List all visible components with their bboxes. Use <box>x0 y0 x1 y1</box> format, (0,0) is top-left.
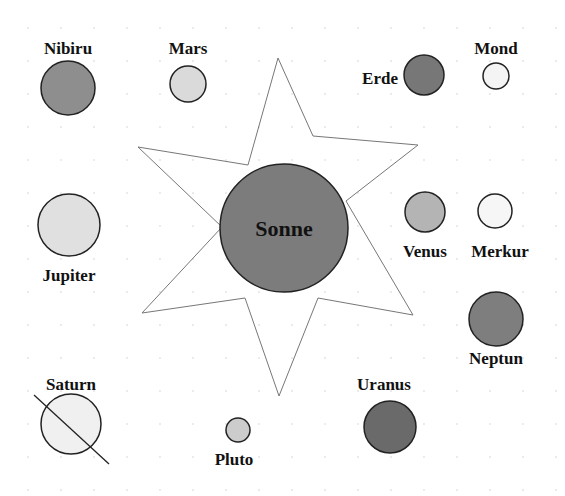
planet-circle-saturn <box>41 394 101 454</box>
planet-label-saturn: Saturn <box>46 375 97 394</box>
planet-jupiter: Jupiter <box>38 194 100 285</box>
solar-system-diagram: Sonne NibiruMarsErdeMondJupiterVenusMerk… <box>0 0 565 496</box>
sun-label: Sonne <box>255 216 313 241</box>
planet-label-nibiru: Nibiru <box>44 39 92 58</box>
planet-label-merkur: Merkur <box>471 242 529 261</box>
planet-circle-neptun <box>469 292 523 346</box>
planet-label-pluto: Pluto <box>215 450 254 469</box>
planet-neptun: Neptun <box>469 292 523 368</box>
planet-circle-erde <box>404 55 444 95</box>
planet-label-uranus: Uranus <box>357 375 411 394</box>
planet-label-jupiter: Jupiter <box>43 266 96 285</box>
planet-label-erde: Erde <box>362 69 398 88</box>
planet-circle-nibiru <box>41 61 95 115</box>
planet-circle-jupiter <box>38 194 100 256</box>
planet-circle-mars <box>170 66 206 102</box>
planet-label-mond: Mond <box>474 39 518 58</box>
planet-label-venus: Venus <box>403 242 447 261</box>
planet-circle-mond <box>483 63 509 89</box>
planet-label-neptun: Neptun <box>469 349 523 368</box>
planet-circle-venus <box>405 192 445 232</box>
planet-nibiru: Nibiru <box>41 39 95 115</box>
planet-label-mars: Mars <box>169 39 208 58</box>
planet-circle-uranus <box>364 401 416 453</box>
planet-circle-pluto <box>226 418 250 442</box>
planet-circle-merkur <box>478 194 512 228</box>
sun: Sonne <box>220 164 348 292</box>
